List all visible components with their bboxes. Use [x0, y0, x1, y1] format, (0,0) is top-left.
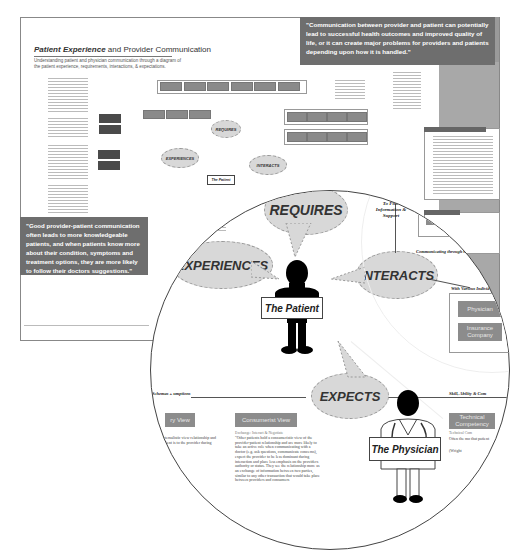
small-experiences-bubble: EXPERIENCES	[161, 148, 199, 168]
patient-name-card: The Patient	[261, 297, 323, 319]
skill-box	[143, 110, 165, 119]
poster-subtitle: Understanding patient and physician comm…	[34, 58, 184, 69]
skill-box	[189, 110, 211, 119]
faded-box	[196, 197, 222, 205]
channel-box	[307, 132, 327, 142]
expects-bubble-tail	[336, 341, 372, 381]
left-text-column-3	[48, 145, 88, 181]
left-text-column-1	[48, 78, 88, 112]
channel-box	[347, 132, 367, 142]
channel-box	[307, 112, 327, 122]
requirement-box	[207, 82, 229, 91]
small-requires-bubble: REQUIRES	[211, 120, 241, 138]
left-dark-box-3	[98, 150, 120, 159]
small-patient-card: The Patient	[207, 175, 235, 185]
schemas-label: r Schemas + umptions	[150, 391, 194, 397]
technical-competency-box: Technical Competency	[449, 413, 495, 429]
footer-credit	[24, 325, 149, 327]
quote-top: "Communication between provider and pati…	[300, 17, 495, 65]
faded-arc	[361, 190, 510, 373]
right-panel-text-1	[433, 136, 493, 194]
requires-bubble-tail	[281, 223, 321, 259]
faded-box	[153, 197, 179, 205]
title-divider	[34, 56, 172, 57]
faded-text	[196, 209, 226, 231]
requirement-box	[254, 82, 276, 91]
requirement-box	[231, 82, 253, 91]
right-text-list	[393, 72, 421, 110]
left-dark-box-4	[98, 161, 120, 170]
right-panel-header-1	[424, 127, 486, 132]
channel-box	[287, 112, 307, 122]
channel-box	[327, 112, 347, 122]
physician-name-card: The Physician	[369, 437, 441, 461]
faded-text	[155, 209, 195, 237]
right-text-block-1	[335, 80, 365, 100]
schema-line	[191, 397, 306, 398]
left-text-column-2	[48, 118, 88, 138]
channel-box	[287, 132, 307, 142]
consumerist-view-box: Consumerist View	[235, 413, 297, 427]
quote-left: "Good provider-patient communication oft…	[20, 217, 148, 275]
connector	[192, 191, 193, 246]
view-left-box: ry View	[165, 413, 195, 427]
technical-citation: (Wright	[449, 448, 462, 453]
skill-box	[166, 110, 188, 119]
consumerist-paragraph: "Other patients hold a consumeristic vie…	[235, 436, 320, 483]
left-text-column-4	[48, 185, 88, 213]
left-paragraph: paternalistic view relationship and pati…	[161, 435, 216, 450]
technical-paragraph: Often the mo that patient	[449, 436, 494, 441]
technical-heading: Technical Com	[449, 431, 472, 435]
requirement-box	[278, 82, 300, 91]
requirement-box	[184, 82, 206, 91]
interacts-bubble-tail	[331, 261, 365, 287]
left-dark-box-2	[99, 125, 121, 134]
small-interacts-bubble: INTERACTS	[249, 155, 287, 175]
channel-box	[347, 112, 367, 122]
requirement-box	[160, 82, 182, 91]
channel-box	[327, 132, 347, 142]
left-dark-box-1	[99, 114, 121, 123]
magnifier-lens: REQUIRES EXPERIENCES INTERACTS The Patie…	[150, 190, 510, 550]
skill-label: Skill, Ability & Com	[449, 391, 486, 396]
poster-title: Patient Experience and Provider Communic…	[34, 45, 211, 54]
